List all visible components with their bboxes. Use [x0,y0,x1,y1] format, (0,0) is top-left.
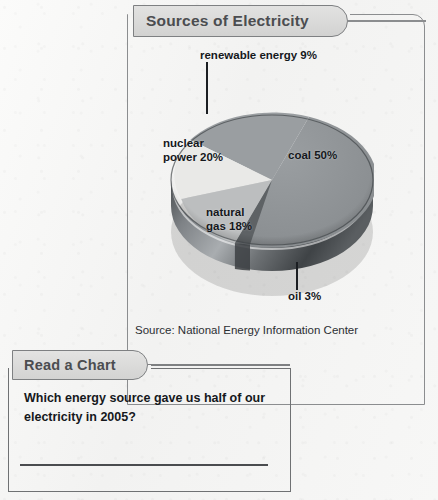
pie-chart [168,74,374,296]
pie-label-natural-gas-text: naturalgas 18% [206,206,252,232]
chart-source-note: Source: National Energy Information Cent… [135,324,358,336]
read-a-chart-panel [8,368,291,492]
read-a-chart-tab-connector-line [148,364,290,366]
renewable-energy-leader-line [206,62,208,114]
question-text: Which energy source gave us half of our … [24,389,274,428]
pie-chart-svg [168,74,374,296]
pie-rim-oil [235,243,250,270]
chart-tab-connector-line [348,20,426,22]
pie-label-nuclear-power: nuclearpower 20% [163,136,223,165]
read-a-chart-tab: Read a Chart [12,350,148,380]
pie-label-oil: oil 3% [288,289,321,303]
chart-title-tab: Sources of Electricity [133,5,348,37]
oil-leader-line [296,262,298,290]
answer-write-in-line[interactable] [20,464,268,466]
pie-label-coal: coal 50% [288,148,337,162]
pie-label-renewable-energy: renewable energy 9% [200,48,317,62]
read-a-chart-label: Read a Chart [24,357,116,373]
pie-edge-shading [171,115,373,245]
pie-label-natural-gas: naturalgas 18% [206,205,252,234]
pie-label-nuclear-power-text: nuclearpower 20% [163,137,223,163]
chart-title-label: Sources of Electricity [146,12,309,30]
